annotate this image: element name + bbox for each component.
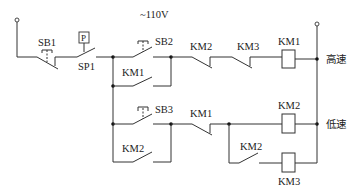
high-speed-label: 高速 xyxy=(326,53,347,65)
svg-text:KM2: KM2 xyxy=(240,141,262,152)
left-supply-terminal xyxy=(15,18,19,57)
sb3-low-speed-start-button: SB3 xyxy=(113,104,173,124)
sp1-pressure-switch: P SP1 xyxy=(77,32,95,72)
km2-coil: KM2 xyxy=(278,100,300,133)
sb2-high-speed-start-button: SB2 xyxy=(113,36,173,57)
km3-nc-interlock-contact: KM3 xyxy=(232,41,259,68)
svg-text:KM2: KM2 xyxy=(122,143,144,154)
svg-text:SB3: SB3 xyxy=(155,104,173,115)
svg-text:SB1: SB1 xyxy=(38,37,56,48)
svg-text:KM3: KM3 xyxy=(278,176,300,187)
sb1-stop-button: SB1 xyxy=(37,37,58,69)
svg-text:KM1: KM1 xyxy=(190,108,212,119)
right-supply-rail xyxy=(315,22,319,163)
km1-holding-contact: KM1 xyxy=(113,57,171,86)
svg-text:KM1: KM1 xyxy=(122,67,144,78)
km2-nc-interlock-contact: KM2 xyxy=(171,41,212,68)
km3-coil: KM3 xyxy=(278,153,300,187)
control-circuit-diagram: ~110V SB1 P SP1 SB2 xyxy=(0,0,358,196)
svg-text:SP1: SP1 xyxy=(78,61,95,72)
km2-holding-contact: KM2 xyxy=(113,124,171,162)
km1-nc-interlock-contact: KM1 xyxy=(171,108,212,135)
svg-text:KM3: KM3 xyxy=(237,41,259,52)
svg-text:SB2: SB2 xyxy=(155,36,173,47)
supply-voltage-label: ~110V xyxy=(140,9,169,20)
svg-text:P: P xyxy=(81,33,86,43)
svg-text:KM2: KM2 xyxy=(278,100,300,111)
svg-text:KM1: KM1 xyxy=(278,36,300,47)
km2-no-contact: KM2 xyxy=(229,124,282,163)
km1-coil: KM1 xyxy=(278,36,300,68)
low-speed-label: 低速 xyxy=(326,118,347,130)
svg-text:KM2: KM2 xyxy=(190,41,212,52)
